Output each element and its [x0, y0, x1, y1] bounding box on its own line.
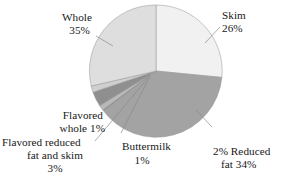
label-flavored-whole: Flavored whole 1%	[60, 109, 105, 134]
pie-slices	[89, 5, 222, 137]
label-skim-value: 26%	[222, 22, 243, 34]
label-flavored-reduced-name: Flavored reduced	[2, 136, 81, 148]
label-flavored-whole-value: whole 1%	[60, 122, 105, 134]
pie-chart-figure: Skim 26% Whole 35% 2% Reduced fat 34% Fl…	[0, 0, 282, 177]
label-flavored-whole-name: Flavored	[63, 109, 104, 121]
label-flavored-reduced-value: 3%	[47, 162, 62, 174]
label-skim-name: Skim	[222, 9, 246, 21]
label-flavored-reduced-name2: fat and skim	[27, 149, 83, 161]
pie-chart-svg: Skim 26% Whole 35% 2% Reduced fat 34% Fl…	[0, 0, 282, 177]
label-buttermilk-name: Buttermilk	[122, 140, 171, 152]
label-2-percent-reduced-fat-name: 2% Reduced	[213, 145, 271, 157]
label-buttermilk-value: 1%	[134, 154, 149, 166]
label-skim: Skim 26%	[222, 9, 246, 34]
label-2-percent-reduced-fat-value: fat 34%	[221, 158, 256, 170]
label-whole-name: Whole	[62, 11, 92, 23]
label-whole-value: 35%	[69, 24, 90, 36]
